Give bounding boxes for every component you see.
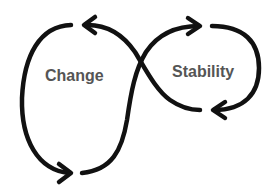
infinity-diagram: Change Stability — [0, 0, 278, 193]
strand-bottom-to-top — [82, 26, 199, 173]
stability-label: Stability — [172, 64, 234, 80]
change-loop-left-arc — [22, 25, 71, 173]
change-label: Change — [45, 68, 104, 84]
